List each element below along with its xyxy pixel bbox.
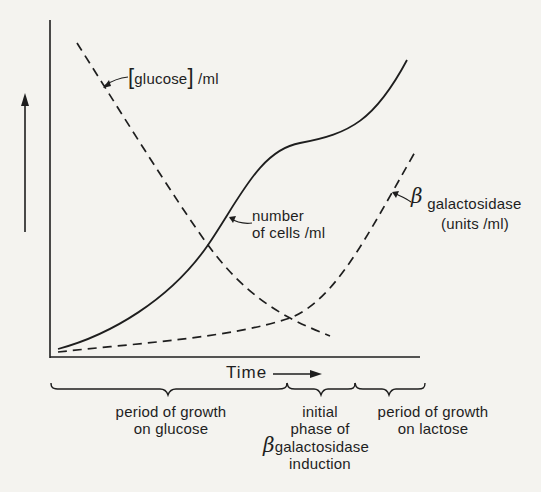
- phase-induction-line4: induction: [265, 455, 375, 472]
- phase-glucose-line2: on glucose: [101, 420, 241, 437]
- glucose-leader-arrowhead: [103, 80, 111, 88]
- glucose-label-suffix: /ml: [198, 70, 219, 87]
- glucose-label: [glucose] /ml: [128, 68, 219, 87]
- cells-leader-arrowhead: [229, 216, 236, 223]
- x-axis-label: Time: [226, 364, 267, 381]
- up-arrow-icon: [21, 93, 29, 232]
- phase-induction-line3: βgalactosidase: [257, 437, 375, 455]
- phase-glucose-label: period of growth on glucose: [101, 403, 241, 437]
- phase-glucose-line1: period of growth: [101, 403, 241, 420]
- phase-lactose-line1: period of growth: [363, 403, 503, 420]
- glucose-label-text: glucose: [134, 70, 187, 87]
- beta-symbol: β: [263, 433, 275, 457]
- brace-induction-phase: [287, 383, 355, 395]
- cells-label-line1: number: [252, 207, 325, 224]
- brace-glucose-phase: [51, 383, 287, 395]
- beta-symbol: β: [411, 184, 423, 208]
- phase-lactose-line2: on lactose: [363, 420, 503, 437]
- brace-lactose-phase: [355, 383, 425, 395]
- glucose-close-bracket: ]: [187, 64, 193, 89]
- phase-lactose-label: period of growth on lactose: [363, 403, 503, 437]
- phase-induction-line1: initial: [265, 403, 375, 420]
- cells-curve: [58, 60, 407, 349]
- right-arrow-icon: [273, 370, 322, 378]
- phase-induction-line3-text: galactosidase: [275, 438, 369, 455]
- beta-gal-label-line2: (units /ml): [441, 215, 509, 232]
- cells-label-line2: of cells /ml: [252, 224, 325, 241]
- cells-label: number of cells /ml: [252, 207, 325, 241]
- phase-induction-label: initial phase of βgalactosidase inductio…: [265, 403, 375, 472]
- phase-induction-line2: phase of: [265, 420, 375, 437]
- beta-galactosidase-curve: [58, 152, 415, 352]
- beta-galactosidase-label: β galactosidase: [411, 188, 521, 206]
- beta-gal-label-line1: galactosidase: [427, 195, 521, 212]
